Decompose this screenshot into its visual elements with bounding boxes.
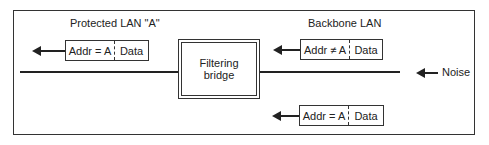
bridge-label-line2: bridge <box>199 69 238 81</box>
backbone-lan-label: Backbone LAN <box>308 17 381 29</box>
backbone-lan-line <box>258 71 400 73</box>
packet-backbone-bottom: Addr = A Data <box>299 105 384 126</box>
noise-label: Noise <box>442 66 470 78</box>
packet-addr: Addr ≠ A <box>301 40 350 59</box>
packet-data: Data <box>115 41 148 60</box>
left-arrow-icon <box>424 72 438 74</box>
left-arrow-icon <box>281 49 301 51</box>
bridge-label-line1: Filtering <box>199 57 238 69</box>
packet-addr: Addr = A <box>66 41 115 60</box>
left-arrow-icon <box>280 115 299 117</box>
packet-addr: Addr = A <box>300 106 349 125</box>
packet-data: Data <box>349 106 383 125</box>
packet-backbone-top: Addr ≠ A Data <box>300 39 383 60</box>
left-arrow-icon <box>40 50 65 52</box>
protected-lan-label: Protected LAN "A" <box>70 17 160 29</box>
filtering-bridge: Filtering bridge <box>178 39 260 99</box>
packet-data: Data <box>350 40 382 59</box>
protected-lan-line <box>20 71 180 73</box>
packet-protected: Addr = A Data <box>65 40 149 61</box>
